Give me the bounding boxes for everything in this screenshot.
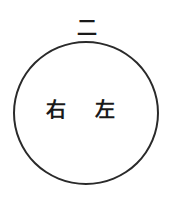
circle-outline [13,41,159,185]
inner-label-right-char: 右 [46,99,66,121]
inner-label-left-char: 左 [95,99,115,121]
top-label: 二 [74,18,100,38]
